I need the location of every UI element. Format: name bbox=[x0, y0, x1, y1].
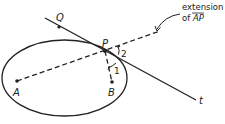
diagram-canvas: Q P A B t 1 2 extension of AP bbox=[0, 0, 225, 124]
label-A: A bbox=[12, 87, 20, 98]
label-t: t bbox=[199, 95, 204, 106]
label-P: P bbox=[102, 38, 109, 49]
annotation-arrow bbox=[157, 14, 180, 29]
point-A bbox=[15, 79, 19, 83]
label-Q: Q bbox=[56, 12, 64, 23]
ellipse-diagram: Q P A B t 1 2 extension of AP bbox=[0, 0, 225, 124]
label-angle-2: 2 bbox=[121, 49, 127, 59]
point-B bbox=[110, 80, 114, 84]
segment-AP-extension bbox=[17, 31, 160, 81]
annotation-segment-AP: AP bbox=[192, 13, 205, 23]
annotation-line-2: of AP bbox=[182, 13, 205, 23]
angle-2-arc bbox=[118, 47, 119, 55]
angle-2-tick bbox=[117, 47, 120, 48]
label-angle-1: 1 bbox=[114, 66, 120, 76]
ellipse bbox=[2, 40, 127, 116]
tangent-line-t bbox=[45, 18, 196, 100]
annotation-prefix: of bbox=[182, 13, 193, 23]
point-P bbox=[103, 49, 107, 53]
annotation-line-1: extension bbox=[182, 2, 223, 12]
point-Q bbox=[57, 25, 60, 28]
label-B: B bbox=[108, 87, 115, 98]
